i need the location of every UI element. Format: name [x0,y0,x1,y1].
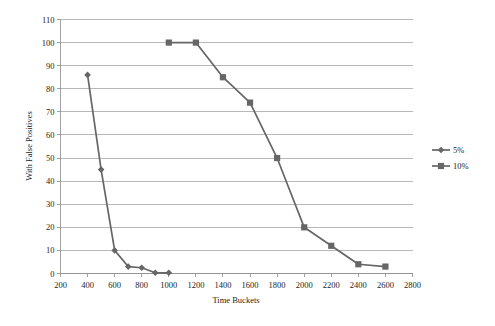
y-tick-label: 40 [46,176,55,186]
series-line [88,75,169,273]
data-point-marker [165,269,172,276]
x-tick-label: 200 [54,280,67,290]
x-tick-label: 1000 [160,280,177,290]
data-point-marker [220,74,226,80]
x-tick-label: 2400 [350,280,367,290]
y-tick-label: 80 [46,84,55,94]
x-tick-label: 800 [135,280,148,290]
data-point-marker [382,263,388,269]
x-axis-tick-labels: 2004006008001000120014001600180020002200… [54,280,421,290]
gridlines-group [61,20,413,274]
y-tick-label: 30 [46,199,55,209]
series-line [169,43,386,267]
data-point-marker [166,39,172,45]
data-point-marker [193,39,199,45]
x-tick-label: 600 [108,280,121,290]
y-tick-label: 50 [46,153,55,163]
y-tick-label: 70 [46,107,55,117]
data-point-marker [152,269,159,276]
line-chart: 0102030405060708090100110 20040060080010… [0,0,495,326]
x-tick-label: 1600 [242,280,259,290]
y-axis-title: With False Positives [24,111,34,181]
y-tick-label: 10 [46,245,55,255]
y-tick-label: 0 [50,269,54,279]
y-tick-label: 100 [42,38,55,48]
x-tick-label: 1200 [187,280,204,290]
legend-label: 5% [453,145,464,155]
chart-container: 0102030405060708090100110 20040060080010… [0,0,495,326]
data-point-marker [301,224,307,230]
legend-square-icon [438,163,444,169]
data-point-marker [98,166,105,173]
x-tick-label: 1800 [269,280,286,290]
data-point-marker [84,72,91,79]
y-axis-tick-labels: 0102030405060708090100110 [42,15,55,279]
y-tick-label: 20 [46,222,55,232]
x-axis-title: Time Buckets [212,295,259,305]
y-tick-label: 60 [46,130,55,140]
y-axis-ticks [57,20,61,274]
series-five-percent [84,72,172,277]
data-point-marker [355,261,361,267]
x-tick-label: 2200 [323,280,340,290]
x-tick-label: 400 [81,280,94,290]
y-tick-label: 110 [42,15,54,25]
series-ten-percent [166,39,389,269]
data-point-marker [328,243,334,249]
x-axis-ticks [61,274,413,278]
legend-label: 10% [453,161,469,171]
x-tick-label: 2600 [377,280,394,290]
data-point-marker [138,264,145,271]
x-tick-label: 2800 [404,280,421,290]
legend-diamond-icon [438,147,445,154]
y-tick-label: 90 [46,61,55,71]
data-point-marker [247,100,253,106]
x-tick-label: 1400 [214,280,231,290]
data-point-marker [274,155,280,161]
chart-legend: 5%10% [432,145,469,171]
x-tick-label: 2000 [296,280,313,290]
